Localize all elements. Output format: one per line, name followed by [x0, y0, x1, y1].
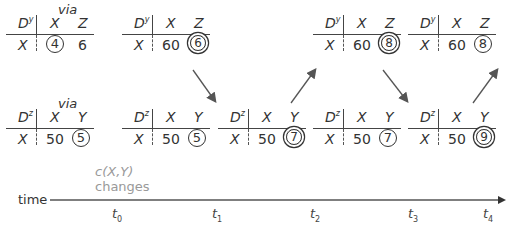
arrows-and-axis — [0, 0, 522, 237]
arrow-z-t3-to-y-t4 — [473, 70, 497, 103]
arrow-z-t1-to-y-t2 — [291, 70, 315, 103]
arrow-y-t2-to-z-t3 — [383, 70, 407, 101]
time-axis-arrowhead — [498, 196, 506, 204]
arrow-y-t0-to-z-t1 — [193, 70, 215, 101]
